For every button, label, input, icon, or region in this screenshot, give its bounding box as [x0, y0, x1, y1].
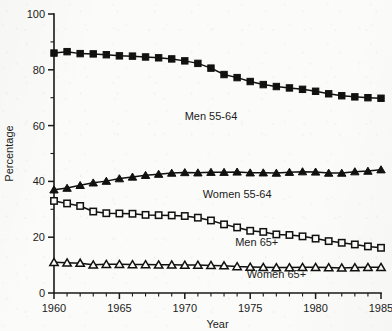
data-point-open-triangle [377, 263, 385, 270]
chart-figure: 020406080100196019651970197519801985 Men… [0, 0, 392, 331]
y-tick-label: 0 [39, 287, 45, 299]
x-tick-label: 1960 [42, 302, 66, 314]
y-axis-title: Percentage [3, 125, 15, 181]
line-chart: 020406080100196019651970197519801985 Men… [0, 0, 392, 331]
data-point-open-square [116, 210, 122, 216]
data-point-open-triangle [128, 261, 136, 268]
data-point-open-square [260, 229, 266, 235]
data-point-open-square [51, 198, 57, 204]
data-point-filled-square [234, 74, 240, 80]
data-point-open-square [378, 245, 384, 251]
series-line [54, 170, 381, 190]
data-point-filled-square [299, 86, 305, 92]
data-point-open-triangle [338, 264, 346, 271]
data-point-open-triangle [181, 261, 189, 268]
x-tick-label: 1985 [369, 302, 392, 314]
data-point-filled-square [90, 51, 96, 57]
series-women-65 [50, 258, 385, 271]
x-axis-title: Year [206, 318, 229, 330]
data-point-open-square [182, 213, 188, 219]
x-tick-label: 1975 [238, 302, 262, 314]
series-label: Women 55-64 [203, 188, 272, 200]
series-men-55-64 [51, 48, 384, 101]
data-point-open-square [208, 217, 214, 223]
data-point-open-triangle [324, 264, 332, 271]
x-tick-label: 1980 [303, 302, 327, 314]
axis-ticks [48, 14, 381, 299]
series-label: Women 65+ [247, 268, 306, 280]
data-point-open-triangle [102, 260, 110, 267]
data-point-open-square [142, 212, 148, 218]
data-point-open-square [64, 200, 70, 206]
data-point-filled-square [142, 54, 148, 60]
data-point-open-triangle [115, 260, 123, 267]
data-point-open-triangle [63, 259, 71, 266]
data-point-filled-square [64, 48, 70, 54]
data-point-open-triangle [154, 261, 162, 268]
data-point-open-triangle [76, 259, 84, 266]
data-point-open-square [325, 238, 331, 244]
series-label: Men 55-64 [185, 110, 238, 122]
data-point-filled-square [182, 58, 188, 64]
y-tick-label: 20 [33, 231, 45, 243]
data-point-filled-square [365, 95, 371, 101]
data-point-open-square [221, 221, 227, 227]
x-tick-label: 1970 [173, 302, 197, 314]
data-point-open-square [103, 210, 109, 216]
data-point-filled-square [247, 78, 253, 84]
data-point-filled-square [169, 56, 175, 62]
data-point-open-square [352, 241, 358, 247]
data-point-filled-square [260, 81, 266, 87]
data-point-filled-square [195, 60, 201, 66]
data-point-open-triangle [233, 263, 241, 270]
data-point-filled-square [129, 53, 135, 59]
data-point-open-square [155, 212, 161, 218]
data-point-open-square [365, 243, 371, 249]
data-point-filled-square [325, 91, 331, 97]
series-label: Men 65+ [235, 236, 278, 248]
data-point-open-triangle [311, 263, 319, 270]
data-point-filled-square [286, 85, 292, 91]
data-point-filled-square [116, 53, 122, 59]
data-series-group [50, 48, 385, 271]
data-point-open-square [129, 211, 135, 217]
data-point-open-triangle [207, 261, 215, 268]
data-point-filled-square [208, 65, 214, 71]
data-point-open-triangle [194, 261, 202, 268]
y-tick-label: 100 [27, 8, 45, 20]
data-point-open-triangle [50, 258, 58, 265]
x-tick-label: 1965 [107, 302, 131, 314]
data-point-filled-square [378, 95, 384, 101]
data-point-filled-square [352, 94, 358, 100]
data-point-open-triangle [351, 264, 359, 271]
data-point-open-square [77, 203, 83, 209]
data-point-open-square [90, 208, 96, 214]
y-tick-label: 40 [33, 175, 45, 187]
data-point-open-triangle [220, 262, 228, 269]
data-point-filled-square [221, 71, 227, 77]
data-point-filled-square [312, 88, 318, 94]
data-point-filled-square [51, 50, 57, 56]
y-tick-label: 60 [33, 120, 45, 132]
y-tick-label: 80 [33, 64, 45, 76]
data-point-open-square [312, 235, 318, 241]
data-point-open-square [195, 214, 201, 220]
data-point-open-triangle [141, 261, 149, 268]
data-point-open-triangle [168, 261, 176, 268]
data-point-filled-square [77, 50, 83, 56]
data-point-filled-square [273, 83, 279, 89]
data-point-open-square [234, 224, 240, 230]
series-annotations: Men 55-64Women 55-64Men 65+Women 65+ [185, 110, 306, 280]
data-point-open-square [299, 233, 305, 239]
axis-titles: YearPercentage [3, 125, 229, 330]
data-point-filled-square [339, 93, 345, 99]
data-point-open-square [169, 212, 175, 218]
data-point-filled-square [103, 52, 109, 58]
data-point-open-square [339, 240, 345, 246]
series-men-65 [51, 198, 384, 251]
data-point-filled-square [155, 55, 161, 61]
data-point-open-triangle [364, 263, 372, 270]
data-point-open-triangle [89, 261, 97, 268]
data-point-open-square [247, 228, 253, 234]
data-point-open-square [286, 232, 292, 238]
